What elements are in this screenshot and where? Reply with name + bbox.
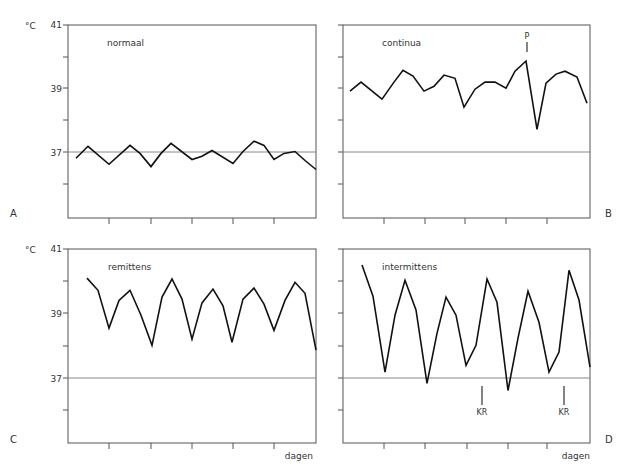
panel-a-title: normaal	[107, 38, 144, 48]
panel-d-y-ticks	[338, 249, 343, 410]
panel-d-frame	[343, 249, 590, 443]
panel-c-temperature-line	[87, 278, 316, 350]
panel-b-x-ticks	[384, 218, 547, 224]
panel-c: °C 41 39 37 remittens C dagen	[10, 244, 316, 461]
panel-a-unit-label: °C	[25, 21, 36, 31]
panel-c-x-ticks	[109, 443, 274, 449]
panel-d-temperature-line	[362, 265, 590, 390]
panel-a-frame	[68, 25, 316, 218]
panel-b-letter: B	[605, 208, 612, 219]
panel-c-ytick-39: 39	[51, 309, 63, 319]
panel-a-letter: A	[10, 208, 17, 219]
panel-c-ytick-41: 41	[51, 244, 62, 254]
fever-chart-figure: °C 41 39 37 normaal A continua P B	[0, 0, 637, 476]
panel-b-y-ticks	[338, 25, 343, 184]
panel-a: °C 41 39 37 normaal A	[10, 20, 316, 224]
panel-b-frame	[343, 25, 590, 218]
panel-c-frame	[68, 249, 316, 443]
panel-a-ytick-41: 41	[51, 20, 62, 30]
panel-b-p-marker-label: P	[525, 32, 530, 41]
panel-d-x-ticks	[384, 443, 547, 449]
panel-c-x-axis-label: dagen	[285, 451, 313, 461]
panel-d-letter: D	[605, 434, 613, 445]
panel-d-title: intermittens	[382, 262, 437, 272]
panel-d-kr-marker-1-label: KR	[477, 408, 488, 417]
panel-a-ytick-39: 39	[51, 84, 63, 94]
panel-b-title: continua	[382, 38, 421, 48]
panel-d-kr-marker-2-label: KR	[559, 408, 570, 417]
panel-a-temperature-line	[76, 141, 316, 169]
panel-c-y-ticks	[63, 249, 68, 410]
panel-a-ytick-37: 37	[51, 148, 62, 158]
panel-c-ytick-37: 37	[51, 374, 62, 384]
panel-d: intermittens KR KR D dagen	[338, 249, 613, 461]
panel-b: continua P B	[338, 25, 612, 224]
panel-c-unit-label: °C	[25, 245, 36, 255]
panel-c-letter: C	[10, 434, 17, 445]
panel-a-x-ticks	[109, 218, 274, 224]
panel-a-y-ticks	[63, 25, 68, 184]
panel-b-temperature-line	[350, 61, 587, 129]
panel-d-x-axis-label: dagen	[562, 451, 590, 461]
panel-c-title: remittens	[108, 262, 152, 272]
